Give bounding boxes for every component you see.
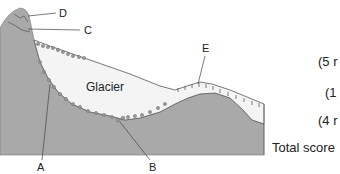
total-score-label: Total score: [272, 141, 335, 154]
label-a: A: [37, 162, 44, 173]
glacier-label: Glacier: [86, 81, 124, 93]
label-d: D: [59, 8, 67, 19]
label-b: B: [149, 162, 156, 173]
marks-5: (5 r: [318, 55, 338, 68]
marks-4: (4 r: [318, 114, 338, 127]
label-e: E: [202, 43, 209, 54]
label-c: C: [84, 25, 92, 36]
marks-1: (1: [325, 86, 337, 99]
